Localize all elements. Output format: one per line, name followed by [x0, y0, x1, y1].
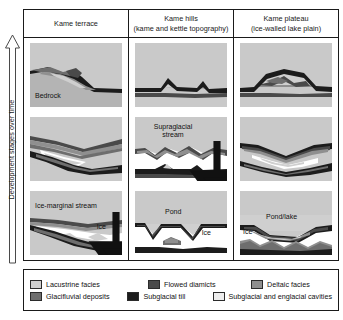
cross-section-r1c1: Bedrock — [30, 43, 122, 107]
cross-section-r1c3 — [240, 43, 332, 107]
column-kame-terrace: Bedrock — [24, 38, 128, 260]
column-header-kame-terrace: Kame terrace — [24, 10, 128, 37]
column-header-kame-plateau: Kame plateau (ice-walled lake plain) — [233, 10, 338, 37]
cross-section-r3c2: Pond Ice — [135, 191, 227, 255]
legend-swatch-icon-glacifluvial — [30, 292, 42, 301]
panel-cell-r3c3: Pond/lake Ice — [234, 186, 338, 260]
panel-cell-r1c2 — [129, 38, 233, 112]
cross-section-r2c2: Supraglacial stream — [135, 117, 227, 181]
panel-label-ice: Ice — [243, 228, 252, 236]
column-header-row: Kame terrace Kame hills (kame and kettle… — [24, 10, 338, 38]
legend-row-2: Glacifluvial deposits Subglacial till Su… — [30, 292, 332, 301]
column-kame-plateau: Pond/lake Ice — [233, 38, 338, 260]
panel-cell-r1c3 — [234, 38, 338, 112]
cross-section-r1c2 — [135, 43, 227, 107]
legend-row-1: Lacustrine facies Flowed diamicts Deltai… — [30, 280, 332, 289]
cross-section-r2c3 — [240, 117, 332, 181]
cross-section-r3c1: Ice-marginal stream Ice — [30, 191, 122, 255]
panel-cell-r2c2: Supraglacial stream — [129, 112, 233, 186]
column-title: Kame terrace — [54, 19, 98, 28]
cross-section-r2c1 — [30, 117, 122, 181]
panel-label-pond: Pond — [165, 208, 181, 216]
legend-label: Flowed diamicts — [164, 280, 216, 289]
panel-label-bedrock: Bedrock — [35, 92, 61, 100]
panel-cell-r2c1 — [24, 112, 128, 186]
legend-label: Subglacial and englacial cavities — [229, 292, 333, 301]
diagram-grid: Kame terrace Kame hills (kame and kettle… — [23, 9, 339, 261]
legend-item-lacustrine-facies: Lacustrine facies — [30, 280, 148, 289]
legend-item-deltaic-facies: Deltaic facies — [251, 280, 310, 289]
legend-swatch-icon-lacustrine — [30, 280, 42, 289]
column-title: Kame plateau — [263, 14, 308, 23]
arrow-down-icon-r2c2 — [171, 141, 227, 181]
legend-swatch-icon-flowed-diamicts — [148, 280, 160, 289]
column-subtitle: (ice-walled lake plain) — [251, 24, 321, 33]
column-kame-hills: Supraglacial stream — [128, 38, 233, 260]
panel-label-ice-marginal-stream: Ice-marginal stream — [35, 202, 97, 210]
panel-cell-r3c2: Pond Ice — [129, 186, 233, 260]
panel-label-pond-lake: Pond/lake — [266, 213, 297, 221]
figure-root: Development stages over time Kame terrac… — [0, 0, 343, 320]
column-title: Kame hills — [164, 14, 198, 23]
column-subtitle: (kame and kettle topography) — [134, 24, 229, 33]
panel-label-supraglacial-stream: Supraglacial stream — [146, 123, 200, 140]
panel-cell-r2c3 — [234, 112, 338, 186]
legend: Lacustrine facies Flowed diamicts Deltai… — [23, 269, 339, 311]
legend-label: Subglacial till — [143, 292, 185, 301]
panel-cell-r3c1: Ice-marginal stream Ice — [24, 186, 128, 260]
legend-item-glacifluvial-deposits: Glacifluvial deposits — [30, 292, 127, 301]
arrow-down-icon-r3c1 — [70, 212, 122, 255]
panel-label-ice: Ice — [202, 229, 211, 237]
panel-matrix: Bedrock — [24, 38, 338, 260]
legend-item-subglacial-englacial-cavities: Subglacial and englacial cavities — [213, 292, 333, 301]
legend-item-subglacial-till: Subglacial till — [127, 292, 212, 301]
legend-label: Deltaic facies — [267, 280, 310, 289]
development-time-axis: Development stages over time — [4, 33, 21, 265]
legend-item-flowed-diamicts: Flowed diamicts — [148, 280, 251, 289]
panel-label-ice: Ice — [97, 223, 106, 231]
legend-swatch-icon-deltaic — [251, 280, 263, 289]
cross-section-r3c3: Pond/lake Ice — [240, 191, 332, 255]
legend-swatch-icon-subglacial-till — [127, 292, 139, 301]
panel-cell-r1c1: Bedrock — [24, 38, 128, 112]
column-header-kame-hills: Kame hills (kame and kettle topography) — [128, 10, 233, 37]
legend-swatch-icon-cavities — [213, 292, 225, 301]
axis-label-text: Development stages over time — [7, 50, 16, 250]
legend-label: Glacifluvial deposits — [46, 292, 110, 301]
legend-label: Lacustrine facies — [46, 280, 100, 289]
